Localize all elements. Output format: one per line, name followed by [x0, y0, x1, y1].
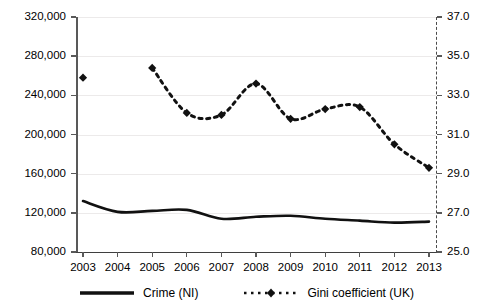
right-axis-label: 35.0: [447, 50, 469, 62]
data-point-marker: [321, 105, 329, 113]
left-axis-label: 80,000: [0, 246, 66, 258]
left-axis-label: 200,000: [0, 129, 66, 141]
right-axis-label: 25.0: [447, 246, 469, 258]
series-crime: [83, 201, 429, 223]
left-axis-label: 120,000: [0, 207, 66, 219]
right-axis-label: 33.0: [447, 89, 469, 101]
left-axis-label: 160,000: [0, 168, 66, 180]
x-axis-label: 2013: [408, 262, 450, 274]
legend-label-gini: Gini coefficient (UK): [307, 286, 413, 300]
legend-item-gini: Gini coefficient (UK): [242, 286, 413, 300]
right-axis-label: 29.0: [447, 168, 469, 180]
legend-item-crime: Crime (NI): [78, 286, 198, 300]
right-axis-label: 31.0: [447, 129, 469, 141]
series-line: [83, 201, 429, 223]
legend-swatch-dashed-diamond: [242, 287, 300, 299]
data-point-marker: [183, 109, 191, 117]
legend-label-crime: Crime (NI): [143, 286, 198, 300]
left-axis-label: 320,000: [0, 11, 66, 23]
left-axis-label: 240,000: [0, 89, 66, 101]
chart-container: Crime (NI) Gini coefficient (UK) 80,0001…: [0, 0, 492, 308]
right-axis-label: 37.0: [447, 11, 469, 23]
series-gini: [79, 64, 433, 172]
right-axis-label: 27.0: [447, 207, 469, 219]
legend-swatch-solid: [78, 287, 136, 299]
left-axis-label: 280,000: [0, 50, 66, 62]
data-point-marker: [252, 79, 260, 87]
chart-legend: Crime (NI) Gini coefficient (UK): [0, 282, 492, 304]
data-point-marker: [79, 74, 87, 82]
